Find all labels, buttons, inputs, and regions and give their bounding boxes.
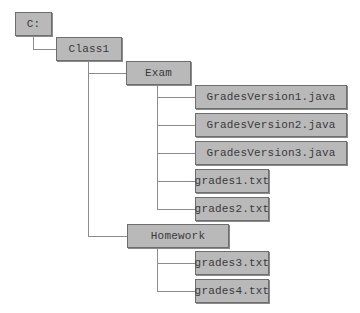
connector [88, 236, 127, 237]
connector [88, 73, 126, 74]
connector [33, 36, 34, 49]
node-file-gradesversion3: GradesVersion3.java [195, 141, 347, 165]
connector [33, 49, 56, 50]
directory-tree: C: Class1 Exam GradesVersion1.java Grade… [0, 0, 360, 313]
node-file-gradesversion2: GradesVersion2.java [195, 113, 347, 137]
connector [157, 209, 195, 210]
node-exam-folder: Exam [126, 61, 191, 85]
connector [157, 263, 195, 264]
node-root-drive: C: [15, 12, 52, 36]
node-class1-folder: Class1 [56, 37, 122, 61]
connector [88, 61, 89, 236]
connector [157, 125, 195, 126]
connector [157, 85, 158, 209]
node-file-grades1: grades1.txt [195, 169, 269, 193]
node-file-grades3: grades3.txt [195, 251, 269, 275]
connector [157, 153, 195, 154]
node-homework-folder: Homework [127, 224, 229, 248]
node-file-grades2: grades2.txt [195, 197, 269, 221]
node-file-gradesversion1: GradesVersion1.java [195, 85, 347, 109]
connector [157, 247, 158, 291]
connector [157, 291, 195, 292]
connector [157, 97, 195, 98]
node-file-grades4: grades4.txt [195, 279, 269, 303]
connector [157, 181, 195, 182]
